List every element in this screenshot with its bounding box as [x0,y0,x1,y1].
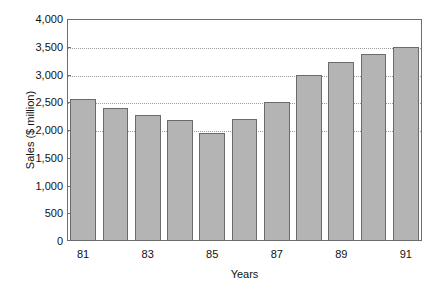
bar [70,99,96,241]
bar [296,75,322,242]
bar [135,115,161,241]
y-axis-tick-label: 0 [11,235,63,247]
bar [264,102,290,241]
bar [361,54,387,241]
y-axis-tick-mark [67,102,71,103]
y-axis-tick-label: 1,000 [11,180,63,192]
bar [103,108,129,241]
y-axis-tick-label: 2,000 [11,124,63,136]
x-axis-title: Years [67,268,422,280]
y-axis-tick-mark [67,186,71,187]
bar [167,120,193,241]
y-axis-tick-label: 500 [11,207,63,219]
y-axis-tick-mark [67,47,71,48]
y-axis-tick-mark [67,213,71,214]
y-axis-tick-label: 3,000 [11,69,63,81]
x-axis-tick-label: 87 [271,248,283,260]
y-axis-ticks: 05001,0001,5002,0002,5003,0003,5004,000 [8,0,63,292]
y-axis-tick-mark [67,158,71,159]
bar [199,133,225,241]
x-axis-tick-label: 85 [206,248,218,260]
x-axis-tick-label: 81 [77,248,89,260]
y-axis-tick-label: 4,000 [11,13,63,25]
bar-chart: Sales ($ million) 05001,0001,5002,0002,5… [0,0,433,292]
x-axis-tick-label: 91 [400,248,412,260]
bar [328,62,354,241]
y-axis-tick-mark [67,75,71,76]
y-axis-tick-mark [67,130,71,131]
y-axis-tick-label: 2,500 [11,96,63,108]
x-axis-tick-label: 83 [142,248,154,260]
y-axis-tick-label: 1,500 [11,152,63,164]
y-axis-tick-label: 3,500 [11,41,63,53]
bars-group [67,19,422,241]
x-axis-tick-label: 89 [335,248,347,260]
bar [232,119,258,241]
bar [393,47,419,241]
